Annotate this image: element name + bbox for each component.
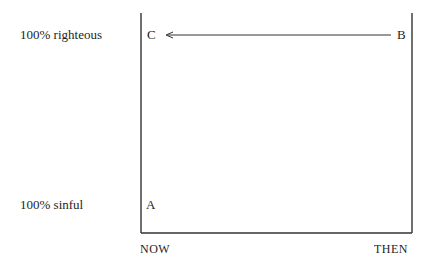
point-b: B — [397, 27, 406, 43]
label-100-sinful: 100% sinful — [20, 197, 83, 213]
label-then: THEN — [374, 242, 408, 257]
point-c: C — [147, 27, 156, 43]
label-100-righteous: 100% righteous — [20, 27, 102, 43]
label-now: NOW — [140, 242, 170, 257]
point-a: A — [146, 197, 155, 213]
